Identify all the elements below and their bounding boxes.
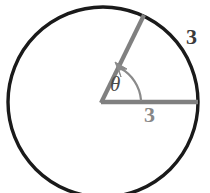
figure-canvas [0, 0, 210, 193]
radius-slanted [101, 15, 144, 103]
label-radius-horizontal-length: 3 [144, 104, 155, 126]
geometry-figure: θ 3 3 [0, 0, 210, 193]
angle-label-theta: θ [110, 74, 120, 95]
label-radius-slanted-length: 3 [186, 26, 197, 48]
angle-arc [120, 68, 141, 100]
